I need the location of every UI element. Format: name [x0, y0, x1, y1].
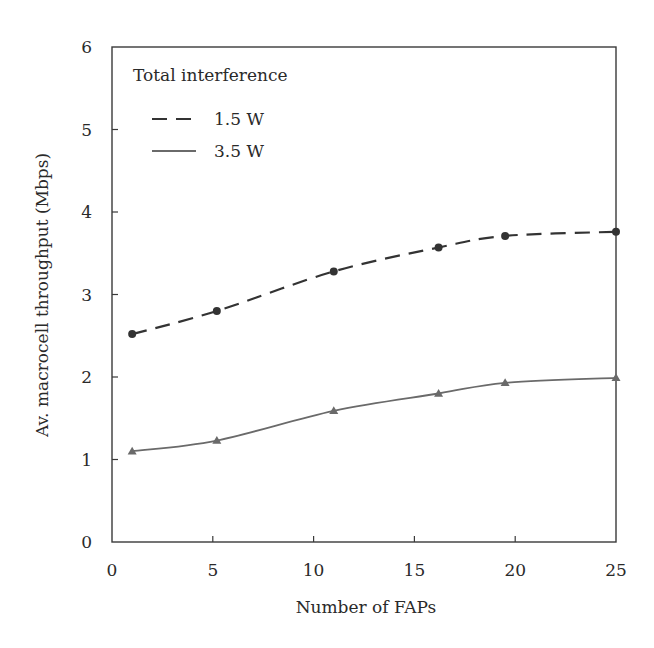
circle-marker-icon — [612, 228, 620, 236]
legend-label-3-5w: 3.5 W — [214, 141, 264, 161]
legend-label-1-5w: 1.5 W — [214, 109, 264, 129]
series-3-5-w — [128, 373, 621, 454]
data-series — [128, 228, 621, 455]
series-line — [132, 378, 616, 451]
series-1-5-w — [128, 228, 620, 338]
y-tick-label: 3 — [81, 285, 92, 305]
legend-title: Total interference — [133, 65, 288, 85]
x-tick-label: 10 — [303, 560, 325, 580]
circle-marker-icon — [501, 232, 509, 240]
x-tick-label: 0 — [107, 560, 118, 580]
y-axis-title: Av. macrocell throughput (Mbps) — [32, 153, 52, 438]
y-tick-label: 0 — [81, 532, 92, 552]
x-axis-title: Number of FAPs — [296, 597, 437, 617]
circle-marker-icon — [213, 307, 221, 315]
plot-area-border — [112, 47, 616, 542]
y-tick-label: 5 — [81, 120, 92, 140]
x-tick-label: 15 — [404, 560, 426, 580]
x-tick-label: 20 — [504, 560, 526, 580]
y-tick-label: 6 — [81, 37, 92, 57]
x-tick-label: 5 — [207, 560, 218, 580]
y-tick-label: 2 — [81, 367, 92, 387]
circle-marker-icon — [128, 330, 136, 338]
y-tick-label: 4 — [81, 202, 92, 222]
plot-frame — [112, 47, 616, 542]
series-line — [132, 232, 616, 334]
chart: 0510152025 0123456 Total interference 1.… — [0, 0, 654, 648]
circle-marker-icon — [330, 267, 338, 275]
legend: Total interference 1.5 W 3.5 W — [133, 65, 288, 161]
x-tick-label: 25 — [605, 560, 627, 580]
circle-marker-icon — [435, 243, 443, 251]
y-tick-label: 1 — [81, 450, 92, 470]
line-chart: 0510152025 0123456 Total interference 1.… — [0, 0, 654, 648]
